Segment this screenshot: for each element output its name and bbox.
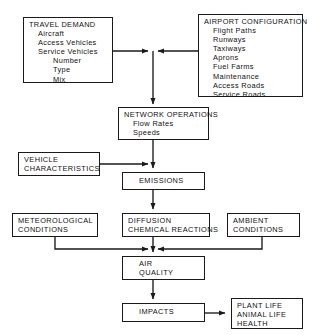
ambient-conditions-line2: CONDITIONS xyxy=(233,225,295,234)
node-impacts: IMPACTS xyxy=(122,303,205,322)
connector-meteorological-elbow xyxy=(55,237,148,249)
travel-demand-item: Access Vehicles xyxy=(29,38,108,47)
node-air-quality: AIR QUALITY xyxy=(122,256,205,280)
node-diffusion-chemical-reactions: DIFFUSION CHEMICAL REACTIONS xyxy=(122,213,210,237)
airport-configuration-item: Flight Paths xyxy=(204,26,298,35)
airport-configuration-title: AIRPORT CONFIGURATION xyxy=(204,17,298,26)
network-operations-item: Flow Rates xyxy=(124,119,204,128)
airport-configuration-item: Maintenance xyxy=(204,72,298,81)
emissions-title: EMISSIONS xyxy=(139,176,200,185)
outcomes-line1: PLANT LIFE xyxy=(237,301,298,310)
ambient-conditions-line1: AMBIENT xyxy=(233,216,295,225)
travel-demand-subitem: Number xyxy=(29,56,108,65)
airport-configuration-item: Fuel Farms xyxy=(204,62,298,71)
vehicle-characteristics-line2: CHARACTERISTICS xyxy=(24,164,95,173)
node-outcomes: PLANT LIFE ANIMAL LIFE HEALTH xyxy=(231,298,303,329)
diffusion-line1: DIFFUSION xyxy=(128,216,205,225)
node-meteorological-conditions: METEOROLOGICAL CONDITIONS xyxy=(12,213,98,237)
outcomes-line3: HEALTH xyxy=(237,319,298,328)
node-airport-configuration: AIRPORT CONFIGURATION Flight Paths Runwa… xyxy=(198,14,303,97)
diffusion-line2: CHEMICAL REACTIONS xyxy=(128,225,205,234)
air-quality-line2: QUALITY xyxy=(139,268,200,277)
node-network-operations: NETWORK OPERATIONS Flow Rates Speeds xyxy=(118,107,209,140)
airport-configuration-item: Access Roads xyxy=(204,81,298,90)
travel-demand-subitem: Mix xyxy=(29,75,108,84)
airport-configuration-item: Taxiways xyxy=(204,44,298,53)
air-quality-line1: AIR xyxy=(139,259,200,268)
travel-demand-subitem: Type xyxy=(29,65,108,74)
connector-ambient-elbow xyxy=(158,237,262,249)
vehicle-characteristics-line1: VEHICLE xyxy=(24,155,95,164)
meteorological-conditions-line1: METEOROLOGICAL xyxy=(18,216,93,225)
airport-configuration-item: Service Roads xyxy=(204,90,298,99)
network-operations-title: NETWORK OPERATIONS xyxy=(124,110,204,119)
network-operations-item: Speeds xyxy=(124,128,204,137)
node-ambient-conditions: AMBIENT CONDITIONS xyxy=(227,213,300,237)
travel-demand-item: Service Vehicles xyxy=(29,47,108,56)
airport-configuration-item: Runways xyxy=(204,35,298,44)
flowchart-diagram: TRAVEL DEMAND Aircraft Access Vehicles S… xyxy=(0,0,318,335)
travel-demand-item: Aircraft xyxy=(29,29,108,38)
node-emissions: EMISSIONS xyxy=(122,172,205,190)
node-travel-demand: TRAVEL DEMAND Aircraft Access Vehicles S… xyxy=(23,17,113,83)
travel-demand-title: TRAVEL DEMAND xyxy=(29,20,108,29)
impacts-title: IMPACTS xyxy=(139,307,200,316)
airport-configuration-item: Aprons xyxy=(204,53,298,62)
outcomes-line2: ANIMAL LIFE xyxy=(237,310,298,319)
node-vehicle-characteristics: VEHICLE CHARACTERISTICS xyxy=(18,152,100,176)
meteorological-conditions-line2: CONDITIONS xyxy=(18,225,93,234)
